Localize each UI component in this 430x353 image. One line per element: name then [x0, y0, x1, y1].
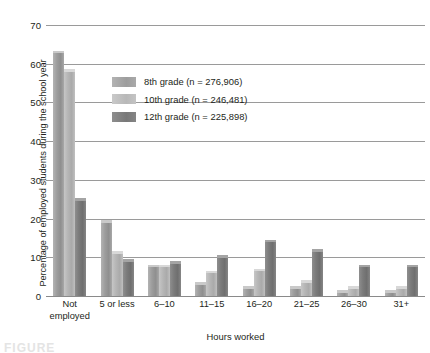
- bar: [101, 222, 112, 296]
- bar-group: [330, 25, 377, 296]
- bar-face: [101, 222, 112, 296]
- x-axis-tick-label: 31+: [378, 299, 425, 322]
- bar: [348, 288, 359, 296]
- bar: [75, 200, 86, 296]
- legend-label: 10th grade (n = 246,481): [144, 94, 247, 105]
- y-axis-tick-label: 0: [36, 291, 41, 302]
- bar-top-cap: [159, 265, 170, 268]
- legend: 8th grade (n = 276,906)10th grade (n = 2…: [112, 76, 247, 122]
- x-axis-tick-labels: Notemployed5 or less6–1011–1516–2021–252…: [46, 299, 425, 322]
- bar-top-cap: [101, 220, 112, 223]
- bar-face: [64, 71, 75, 296]
- bar-top-cap: [359, 265, 370, 268]
- bar: [123, 261, 134, 296]
- bar-face: [359, 267, 370, 296]
- bar: [312, 251, 323, 296]
- x-axis-tick-label: 21–25: [283, 299, 330, 322]
- y-axis-tick-label: 60: [30, 58, 41, 69]
- bar-top-cap: [75, 198, 86, 201]
- bar: [254, 271, 265, 296]
- bar-face: [217, 257, 228, 296]
- x-axis-tick-label: 16–20: [236, 299, 283, 322]
- bar-face: [53, 53, 64, 296]
- bar: [170, 263, 181, 296]
- bar-chart-figure: Percentage of employed students during t…: [0, 0, 430, 353]
- figure-caption-partial: FIGURE: [4, 341, 184, 353]
- bar: [385, 292, 396, 296]
- bar-top-cap: [195, 282, 206, 285]
- x-axis-tick-label: Notemployed: [46, 299, 93, 322]
- x-axis-tick-label: 26–30: [330, 299, 377, 322]
- bar-face: [148, 267, 159, 296]
- bar-top-cap: [123, 259, 134, 262]
- bar-face: [396, 288, 407, 296]
- bar-top-cap: [217, 255, 228, 258]
- bar-top-cap: [254, 269, 265, 272]
- bar-face: [243, 288, 254, 296]
- bar: [195, 284, 206, 296]
- x-axis-tick-label: 5 or less: [93, 299, 140, 322]
- bar-face: [265, 242, 276, 296]
- legend-item: 10th grade (n = 246,481): [112, 94, 247, 105]
- y-axis-tick-label: 20: [30, 213, 41, 224]
- bar: [217, 257, 228, 296]
- bar: [337, 292, 348, 296]
- bar-group: [378, 25, 425, 296]
- y-axis-tick-label: 70: [30, 20, 41, 31]
- bar-top-cap: [243, 286, 254, 289]
- bar-groups: [46, 25, 425, 296]
- bar-face: [159, 267, 170, 296]
- bar-top-cap: [301, 280, 312, 283]
- y-axis-tick-label: 10: [30, 252, 41, 263]
- bar-top-cap: [170, 261, 181, 264]
- bar-top-cap: [312, 249, 323, 252]
- legend-swatch: [112, 77, 136, 87]
- legend-label: 8th grade (n = 276,906): [144, 76, 242, 87]
- bar-face: [254, 271, 265, 296]
- bar-face: [75, 200, 86, 296]
- bar: [359, 267, 370, 296]
- bar-face: [290, 288, 301, 296]
- bar-top-cap: [337, 290, 348, 293]
- y-axis-tick-label: 50: [30, 97, 41, 108]
- bar: [301, 282, 312, 296]
- bar-group: [141, 25, 188, 296]
- bar-top-cap: [385, 290, 396, 293]
- bar: [159, 267, 170, 296]
- bar-face: [195, 284, 206, 296]
- legend-swatch: [112, 94, 136, 104]
- bar-group: [46, 25, 93, 296]
- bar-face: [123, 261, 134, 296]
- bar-face: [170, 263, 181, 296]
- bar-group: [236, 25, 283, 296]
- x-axis-tick-label: 6–10: [141, 299, 188, 322]
- bar-top-cap: [53, 51, 64, 54]
- bar-group: [93, 25, 140, 296]
- bar-top-cap: [112, 251, 123, 254]
- bar: [206, 273, 217, 296]
- bar-top-cap: [396, 286, 407, 289]
- bar-face: [206, 273, 217, 296]
- bar-top-cap: [148, 265, 159, 268]
- bar-top-cap: [348, 286, 359, 289]
- bar: [290, 288, 301, 296]
- legend-item: 12th grade (n = 225,898): [112, 111, 247, 122]
- bar-face: [385, 292, 396, 296]
- bar: [64, 71, 75, 296]
- bar-top-cap: [265, 240, 276, 243]
- bar: [243, 288, 254, 296]
- bar-face: [337, 292, 348, 296]
- bar-top-cap: [64, 69, 75, 72]
- bar-group: [283, 25, 330, 296]
- plot-area: 010203040506070: [46, 25, 425, 296]
- x-axis-tick-label: 11–15: [188, 299, 235, 322]
- gridline-0: 0: [46, 296, 425, 297]
- bar-top-cap: [407, 265, 418, 268]
- bar-face: [112, 253, 123, 296]
- y-axis-tick-label: 40: [30, 136, 41, 147]
- y-axis-tick-label: 30: [30, 174, 41, 185]
- bar: [53, 53, 64, 296]
- bar: [396, 288, 407, 296]
- bar-face: [301, 282, 312, 296]
- bar-face: [312, 251, 323, 296]
